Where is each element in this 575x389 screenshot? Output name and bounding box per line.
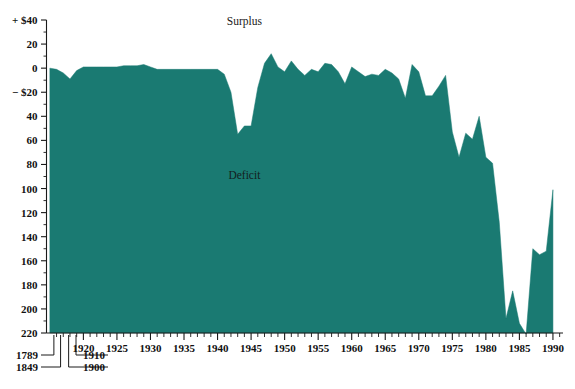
y-axis-label: 140 bbox=[21, 231, 38, 243]
x-axis-label: 1985 bbox=[508, 342, 531, 354]
y-axis-label: 20 bbox=[27, 38, 39, 50]
x-axis-label: 1990 bbox=[542, 342, 565, 354]
y-axis-label: − $20 bbox=[12, 86, 38, 98]
budget-surplus-deficit-chart: + $40200− $20406080100120140160180200220… bbox=[0, 0, 575, 389]
x-axis-label: 1965 bbox=[374, 342, 397, 354]
early-axis-label: 1849 bbox=[16, 361, 39, 373]
y-axis-label: 200 bbox=[21, 303, 38, 315]
x-axis-label: 1935 bbox=[173, 342, 196, 354]
y-axis-label: 80 bbox=[27, 158, 39, 170]
y-axis-label: 0 bbox=[32, 62, 38, 74]
chart-annotation-surplus: Surplus bbox=[227, 15, 263, 28]
x-axis-label: 1930 bbox=[139, 342, 162, 354]
y-axis-label: 100 bbox=[21, 183, 38, 195]
x-axis-label: 1955 bbox=[307, 342, 330, 354]
x-axis-label: 1945 bbox=[240, 342, 263, 354]
x-axis-label: 1925 bbox=[106, 342, 129, 354]
y-axis-label: 120 bbox=[21, 207, 38, 219]
early-axis-label: 1789 bbox=[16, 349, 39, 361]
y-axis-label: 220 bbox=[21, 327, 38, 339]
x-axis-label: 1940 bbox=[207, 342, 230, 354]
y-axis-label: 180 bbox=[21, 279, 38, 291]
x-axis-label: 1950 bbox=[274, 342, 297, 354]
x-axis-label: 1960 bbox=[341, 342, 364, 354]
chart-annotation-deficit: Deficit bbox=[228, 169, 261, 181]
y-axis-label: 60 bbox=[27, 134, 39, 146]
y-axis-label: 160 bbox=[21, 255, 38, 267]
x-axis-label: 1975 bbox=[441, 342, 464, 354]
y-axis-label: + $40 bbox=[12, 14, 38, 26]
early-axis-label: 1900 bbox=[83, 361, 106, 373]
chart-svg: + $40200− $20406080100120140160180200220… bbox=[0, 0, 575, 389]
x-axis-label: 1980 bbox=[475, 342, 498, 354]
early-axis-label: 1910 bbox=[83, 349, 106, 361]
y-axis-label: 40 bbox=[27, 110, 39, 122]
x-axis-label: 1970 bbox=[408, 342, 431, 354]
